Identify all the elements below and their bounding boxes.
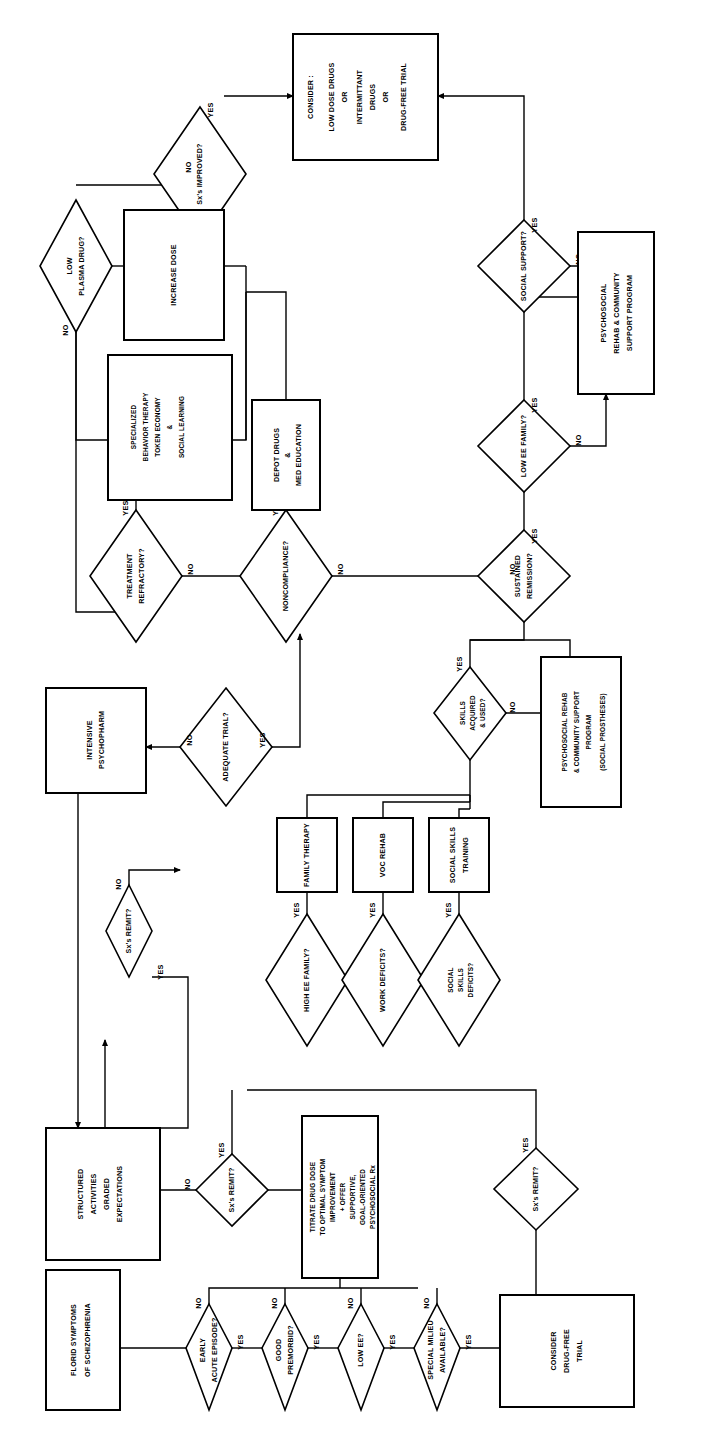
flowchart-canvas: CONSIDER : LOW DOSE DRUGS OR INTERMITTAN… <box>0 0 709 1451</box>
node-label: AVAILABLE? <box>439 1327 447 1373</box>
edge-label-no: NO <box>508 563 517 574</box>
node-label: BEHAVIOR THERAPY <box>142 392 149 461</box>
node-label: + OFFER <box>339 1183 346 1212</box>
node-consider-drug-free-trial[interactable]: CONSIDER DRUG-FREE TRIAL <box>500 1295 634 1407</box>
node-label: TOKEN ECONOMY <box>154 397 161 457</box>
edge-label-yes: YES <box>455 656 464 671</box>
node-label: TITRATE DRUG DOSE <box>309 1161 316 1232</box>
node-label: & COMMUNITY SUPPORT <box>573 691 580 773</box>
edge-label-yes: YES <box>292 902 301 917</box>
edge-label-yes: YES <box>464 1334 473 1349</box>
node-label: SOCIAL SKILLS <box>449 827 457 884</box>
node-label: WORK DEFICITS? <box>379 948 387 1012</box>
edge-label-no: NO <box>61 324 70 335</box>
node-label: PROGRAM <box>585 715 592 750</box>
node-label: SUPPORTIVE, <box>349 1174 357 1219</box>
edge-label-no: NO <box>270 1297 279 1308</box>
node-label: VOC REHAB <box>379 833 387 877</box>
node-label: INTERMITTANT <box>356 69 364 124</box>
edge-label-yes: YES <box>312 1334 321 1349</box>
edge-label-no: NO <box>114 878 123 889</box>
node-label: OF SCHIZOPHRENIA <box>84 1303 92 1377</box>
node-label: CONSIDER : <box>307 75 315 119</box>
edge-label-no: NO <box>185 734 194 745</box>
edge-label-yes: YES <box>206 102 215 117</box>
edge-label-no: NO <box>183 1178 192 1189</box>
node-label: Sx's IMPROVED? <box>196 143 204 204</box>
edge-label-yes: YES <box>530 217 539 232</box>
node-label: INCREASE DOSE <box>170 244 178 305</box>
node-label: CONSIDER <box>550 1331 558 1370</box>
node-label: & <box>166 424 173 429</box>
node-label: PSYCHOSOCIAL <box>600 283 608 343</box>
node-voc-rehab[interactable]: VOC REHAB <box>353 818 413 892</box>
node-label: FLORID SYMPTOMS <box>70 1304 78 1376</box>
edge-label-no: NO <box>346 1297 355 1308</box>
node-consider-box[interactable]: CONSIDER : LOW DOSE DRUGS OR INTERMITTAN… <box>293 34 438 160</box>
node-label: NONCOMPLIANCE? <box>282 541 290 612</box>
node-structured-activities[interactable]: STRUCTURED ACTIVITIES GRADED EXPECTATION… <box>46 1128 160 1260</box>
edge-label-yes: YES <box>368 902 377 917</box>
node-titrate-drug-dose[interactable]: TITRATE DRUG DOSE TO OPTIMAL SYMPTOM IMP… <box>302 1116 378 1278</box>
node-increase-dose[interactable]: INCREASE DOSE <box>124 210 224 340</box>
node-label: TREATMENT <box>126 553 134 598</box>
edge-label-yes: YES <box>121 500 130 515</box>
node-label: REFRACTORY? <box>138 548 146 603</box>
node-label: PSYCHOPHARM <box>98 711 106 769</box>
edge-label-no: NO <box>336 563 345 574</box>
node-label: ACTIVITIES <box>90 1173 98 1214</box>
node-specialized-behavior-therapy[interactable]: SPECIALIZED BEHAVIOR THERAPY TOKEN ECONO… <box>108 355 232 500</box>
node-label: Sx's REMIT? <box>125 909 133 954</box>
node-label: & USED? <box>479 698 486 727</box>
edge-label-no: NO <box>194 1297 203 1308</box>
node-label: TRAINING <box>462 837 470 873</box>
node-label: REHAB & COMMUNITY <box>613 272 621 353</box>
node-intensive-psychopharm[interactable]: INTENSIVE PSYCHOPHARM <box>46 688 146 793</box>
edge-label-no: NO <box>422 1297 431 1308</box>
node-label: Sx's REMIT? <box>532 1167 540 1212</box>
node-family-therapy[interactable]: FAMILY THERAPY <box>277 818 337 892</box>
edge-label-no: NO <box>186 563 195 574</box>
node-label: OR <box>341 91 349 102</box>
node-label: DRUG-FREE TRIAL <box>400 63 408 131</box>
node-social-skills-training[interactable]: SOCIAL SKILLS TRAINING <box>429 818 489 892</box>
edge-label-yes: YES <box>444 902 453 917</box>
node-psr-support[interactable]: PSYCHOSOCIAL REHAB & COMMUNITY SUPPORT P… <box>578 232 654 394</box>
node-label: PSYCHOSOCIAL REHAB <box>561 692 568 771</box>
node-label: GRADED <box>103 1178 111 1210</box>
node-label: PREMORBID? <box>287 1325 295 1375</box>
edge-label-yes: YES <box>530 528 539 543</box>
edge-label-yes: YES <box>388 1334 397 1349</box>
node-label: SOCIAL LEARNING <box>178 396 185 458</box>
edge-label-yes: YES <box>258 732 267 747</box>
node-label: GOAL-ORIENTED <box>359 1169 366 1225</box>
node-label: SKILLS <box>457 968 464 992</box>
node-label: IMPROVEMENT <box>329 1172 336 1222</box>
edge-label-yes: YES <box>521 1137 530 1152</box>
node-florid-symptoms[interactable]: FLORID SYMPTOMS OF SCHIZOPHRENIA <box>46 1270 120 1410</box>
node-label: SPECIALIZED <box>130 405 137 450</box>
node-label: DRUG-FREE <box>563 1329 571 1373</box>
node-label: ADEQUATE TRIAL? <box>222 712 230 781</box>
node-psr-prostheses[interactable]: PSYCHOSOCIAL REHAB & COMMUNITY SUPPORT P… <box>541 657 621 807</box>
node-label: PLASMA DRUG? <box>78 236 86 295</box>
node-label: STRUCTURED <box>77 1169 85 1220</box>
edge-label-yes: YES <box>236 1334 245 1349</box>
node-label: LOW EE FAMILY? <box>520 415 528 477</box>
node-label: LOW EE? <box>357 1333 365 1367</box>
node-label: DEFICITS? <box>467 963 474 998</box>
node-label: (SOCIAL PROSTHESES) <box>599 693 607 771</box>
node-label: FAMILY THERAPY <box>303 823 311 887</box>
node-label: LOW DOSE DRUGS <box>328 62 336 131</box>
edge-label-no: NO <box>184 161 193 172</box>
edge-label-yes: YES <box>217 1142 226 1157</box>
node-label: TRIAL <box>576 1340 584 1362</box>
node-depot-drugs[interactable]: DEPOT DRUGS & MED EDUCATION <box>252 400 320 510</box>
node-label: Sx's REMIT? <box>228 1168 236 1213</box>
node-label: HIGH EE FAMILY? <box>303 948 311 1012</box>
node-label: REMISSION? <box>526 553 534 599</box>
node-label: TO OPTIMAL SYMPTOM <box>319 1159 326 1236</box>
node-label: ACUTE EPISODE? <box>211 1317 219 1382</box>
node-label: SKILLS <box>459 701 466 725</box>
node-label: EXPECTATIONS <box>116 1166 124 1223</box>
